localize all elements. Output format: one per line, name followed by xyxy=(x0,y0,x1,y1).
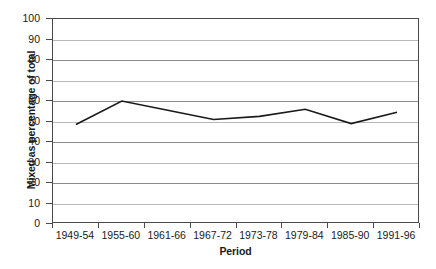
x-tick-label-1961-66: 1961-66 xyxy=(144,228,190,242)
y-tick-label-30: 30 xyxy=(0,157,40,167)
x-tick-8 xyxy=(419,223,420,228)
x-tick-label-1991-96: 1991-96 xyxy=(373,228,419,242)
x-tick-label-1973-78: 1973-78 xyxy=(236,228,282,242)
x-tick-label-1949-54: 1949-54 xyxy=(52,228,98,242)
y-axis-tick-labels: 0102030405060708090100 xyxy=(0,0,46,269)
y-tick-label-90: 90 xyxy=(0,34,40,44)
y-tick-label-80: 80 xyxy=(0,54,40,64)
y-tick-label-50: 50 xyxy=(0,116,40,126)
x-tick-label-1967-72: 1967-72 xyxy=(190,228,236,242)
x-tick-label-1979-84: 1979-84 xyxy=(281,228,327,242)
x-tick-label-1955-60: 1955-60 xyxy=(98,228,144,242)
y-tick-label-20: 20 xyxy=(0,177,40,187)
x-axis-title: Period xyxy=(52,245,419,257)
y-tick-label-60: 60 xyxy=(0,95,40,105)
y-tick-label-40: 40 xyxy=(0,136,40,146)
y-tick-label-100: 100 xyxy=(0,13,40,23)
line-chart: Mixed as percentage of total 01020304050… xyxy=(0,0,436,269)
y-tick-label-70: 70 xyxy=(0,75,40,85)
series-line-mixed-as-percentage-of-total xyxy=(53,19,420,224)
y-tick-label-10: 10 xyxy=(0,198,40,208)
plot-area xyxy=(52,18,419,223)
x-tick-label-1985-90: 1985-90 xyxy=(327,228,373,242)
x-axis-tick-labels: 1949-541955-601961-661967-721973-781979-… xyxy=(52,228,419,244)
y-tick-label-0: 0 xyxy=(0,218,40,228)
